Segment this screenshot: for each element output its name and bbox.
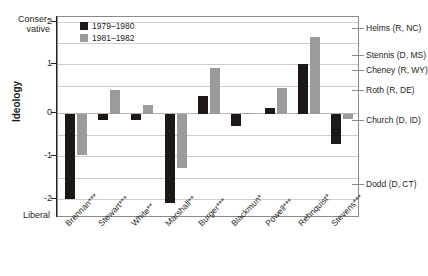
bar-stewart-series2 [110,90,120,114]
bar-blackmun-series1 [231,114,241,125]
legend-entry-1: 1981–1982 [80,32,135,44]
bar-marshall-series1 [165,114,175,203]
y-tick-label-2: 2 [28,17,52,26]
annotation-leader-5 [352,184,364,185]
annotation-leader-0 [352,28,364,29]
bar-powell-series2 [277,88,287,115]
bar-burger-series1 [198,96,208,114]
bar-white-series1 [131,114,141,120]
annotation-leader-2 [352,70,364,71]
ideology-bar-chart: Conser- vative Liberal Ideology 2 1 0 -1… [0,0,428,276]
bars-layer [58,17,358,216]
annotation-label-church: Church (D, ID) [366,116,421,125]
legend-swatch-icon-0 [80,22,88,30]
y-tick-label-m2: -2 [28,194,52,203]
bar-stewart-series1 [98,114,108,120]
bar-powell-series1 [265,108,275,114]
bar-rehnquist-series2 [310,37,320,114]
bar-rehnquist-series1 [298,64,308,115]
legend-label-0: 1979–1980 [92,20,135,32]
bar-brennan-series2 [77,114,87,155]
annotation-label-roth: Roth (R, DE) [366,86,415,95]
legend-swatch-icon-1 [80,34,88,42]
bar-stevens-series1 [331,114,341,143]
annotation-label-dodd: Dodd (D, CT) [366,180,417,189]
bar-burger-series2 [210,68,220,115]
annotation-label-stennis: Stennis (D, MS) [366,51,426,60]
annotation-leader-3 [352,90,364,91]
annotation-leader-4 [352,120,364,121]
annotation-label-helms: Helms (R, NC) [366,24,421,33]
legend: 1979–1980 1981–1982 [80,20,135,44]
y-axis-line [56,16,57,217]
bar-blackmun-series2 [243,113,253,114]
bar-brennan-series1 [65,114,75,198]
bar-white-series2 [143,105,153,114]
y-tick-label-0: 0 [28,108,52,117]
annotation-label-cheney: Cheney (R, WY) [366,66,428,75]
annotation-leader-1 [352,55,364,56]
bar-marshall-series2 [177,114,187,168]
y-tick-label-m1: -1 [28,151,52,160]
y-tick-label-1: 1 [28,59,52,68]
bar-stevens-series2 [343,114,353,118]
legend-label-1: 1981–1982 [92,32,135,44]
axis-pole-liberal: Liberal [2,210,50,220]
legend-entry-0: 1979–1980 [80,20,135,32]
y-axis-title: Ideology [11,72,22,132]
